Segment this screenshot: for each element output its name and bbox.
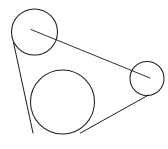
lower-right-tangent-line	[81, 95, 149, 133]
left-tangent-line	[14, 43, 34, 134]
figure-root	[0, 0, 168, 149]
top-left-circle	[12, 9, 58, 55]
large-bottom-circle	[31, 70, 95, 134]
three-circle-tangent-diagram	[0, 0, 168, 149]
right-small-circle	[130, 62, 164, 96]
